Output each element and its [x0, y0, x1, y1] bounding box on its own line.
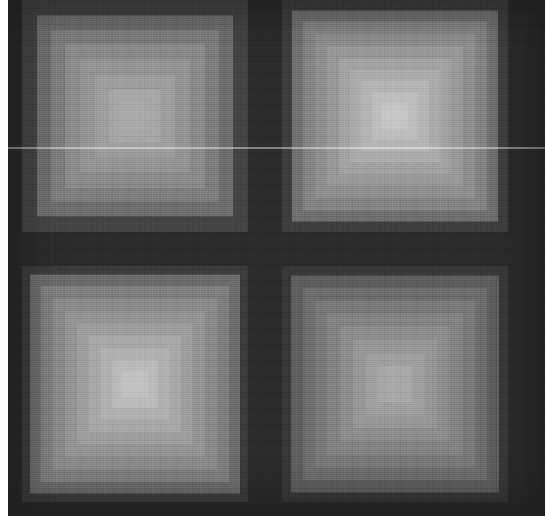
page-margin-bottom	[0, 516, 548, 527]
ring-level-8	[378, 366, 412, 402]
ring-level-9	[122, 371, 148, 398]
panel-top-right	[282, 0, 508, 232]
ring-level-7	[121, 102, 149, 131]
panel-bottom-right	[282, 266, 508, 502]
figure-canvas	[0, 0, 548, 527]
ring-level-9	[382, 103, 408, 130]
page-margin-left	[0, 0, 8, 527]
panel-bottom-left	[22, 266, 248, 502]
heatmap-field	[8, 0, 545, 516]
panel-top-left	[22, 0, 248, 232]
